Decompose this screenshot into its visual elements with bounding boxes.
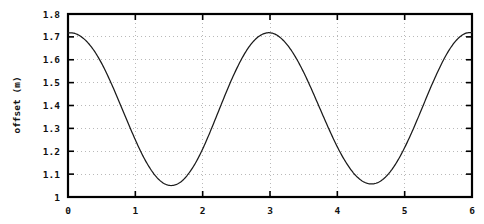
x-tick-label: 5 [402,205,408,216]
line-chart: 11.11.21.31.41.51.61.71.8 0123456 offset… [0,0,484,224]
x-tick-label: 0 [65,205,71,216]
x-tick-label: 3 [267,205,273,216]
x-tick-label: 4 [334,205,340,216]
y-tick-label: 1.6 [43,54,60,65]
y-tick-label: 1.4 [43,100,60,111]
x-tick-label: 2 [200,205,206,216]
y-tick-label: 1.3 [43,123,60,134]
y-axis-tick-labels: 11.11.21.31.41.51.61.71.8 [43,9,60,203]
y-axis-title: offset (m) [11,76,22,133]
chart-figure: 11.11.21.31.41.51.61.71.8 0123456 offset… [0,0,484,224]
x-tick-label: 6 [469,205,475,216]
y-tick-label: 1.8 [43,9,60,20]
y-tick-label: 1.5 [43,77,60,88]
x-tick-label: 1 [132,205,138,216]
y-tick-label: 1.2 [43,146,60,157]
y-tick-label: 1.7 [43,31,60,42]
y-tick-label: 1 [54,192,60,203]
y-tick-label: 1.1 [43,169,60,180]
